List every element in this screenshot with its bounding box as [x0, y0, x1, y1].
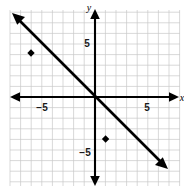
- plotted-line: [12, 13, 168, 169]
- x-axis-arrow-right: [169, 92, 179, 102]
- x-tick-label-pos5: 5: [144, 102, 150, 113]
- x-tick-label-neg5: −5: [36, 102, 48, 113]
- graph-canvas: y x −5 5 5 −5: [0, 0, 184, 192]
- line-segment: [19, 20, 162, 163]
- y-axis-arrow-up: [90, 9, 100, 19]
- y-tick-label-neg5: −5: [79, 147, 91, 158]
- y-axis-arrow-down: [90, 176, 100, 186]
- point-marker: [102, 135, 109, 142]
- x-axis-arrow-left: [10, 92, 20, 102]
- x-axis-label: x: [179, 92, 184, 103]
- y-tick-label-pos5: 5: [84, 38, 90, 49]
- point-marker: [27, 49, 34, 56]
- y-axis-label: y: [86, 2, 92, 13]
- coordinate-plane-graph: y x −5 5 5 −5: [0, 0, 184, 192]
